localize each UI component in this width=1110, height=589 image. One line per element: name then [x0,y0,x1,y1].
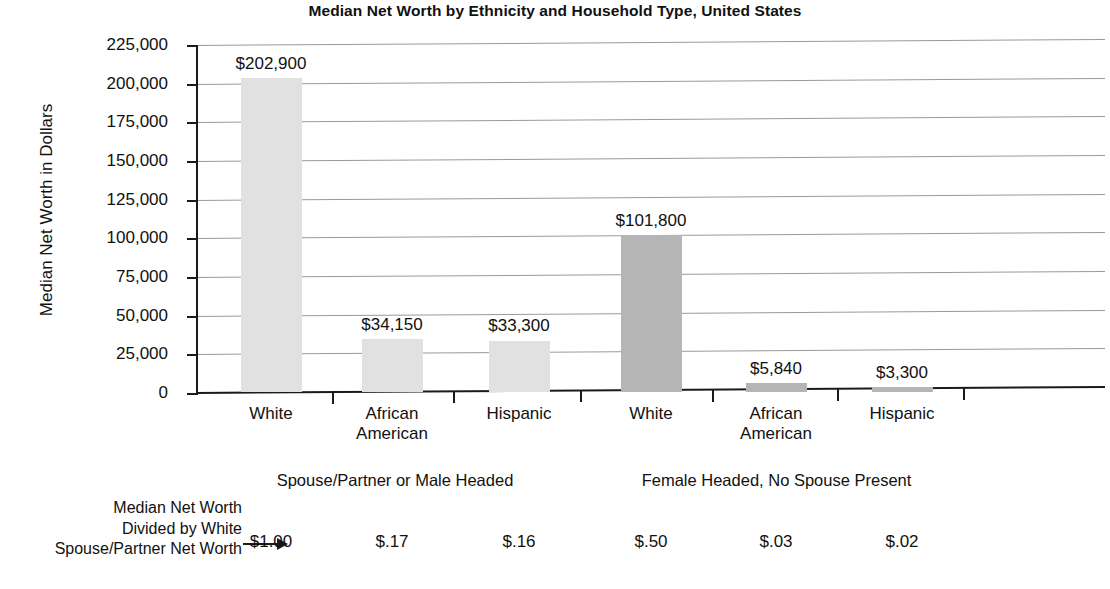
y-axis-tick-labels: 225,000200,000175,000150,000125,000100,0… [0,45,182,393]
ratio-caption-line: Median Net Worth [2,498,242,519]
x-axis-tick [963,388,965,400]
page-title: Median Net Worth by Ethnicity and Househ… [0,2,1110,20]
gridline [196,78,1105,85]
chart-page: Median Net Worth by Ethnicity and Househ… [0,0,1110,589]
gridline [196,194,1105,201]
y-axis-tick-label: 100,000 [107,228,168,248]
ratio-value: $.16 [449,532,589,552]
y-axis-tick-label: 25,000 [116,344,168,364]
bar [489,341,550,393]
gridline [196,39,1105,46]
y-axis-tick-label: 175,000 [107,112,168,132]
y-axis-tick-label: 125,000 [107,190,168,210]
group-label-spouse-partner-or-male-headed: Spouse/Partner or Male Headed [195,471,595,490]
gridline [196,155,1105,162]
x-axis-tick [332,392,334,404]
bar [621,235,682,392]
y-axis-tick-label: 0 [159,383,168,403]
bar [746,383,807,392]
bar [872,387,933,392]
x-axis-tick [580,390,582,402]
plot-area: $202,900$34,150$33,300$101,800$5,840$3,3… [196,45,1105,393]
y-axis-tick-label: 200,000 [107,74,168,94]
bar-value-label: $101,800 [581,211,721,231]
ratio-value: $1.00 [201,532,341,552]
bar-value-label: $5,840 [706,359,846,379]
x-axis-tick [453,391,455,403]
y-axis-tick-label: 50,000 [116,306,168,326]
y-axis-tick-label: 225,000 [107,35,168,55]
bar [241,78,302,392]
ratio-value: $.02 [832,532,972,552]
x-axis-tick [837,389,839,401]
x-axis-tick [712,390,714,402]
bar-value-label: $202,900 [201,54,341,74]
x-axis-category-label: Hispanic [822,404,982,424]
bar-value-label: $33,300 [449,316,589,336]
y-axis-tick-label: 150,000 [107,151,168,171]
ratio-value: $.17 [322,532,462,552]
bar-value-label: $34,150 [322,315,462,335]
y-axis-line [196,45,198,393]
ratio-value: $.50 [581,532,721,552]
bar-value-label: $3,300 [832,363,972,383]
ratio-value: $.03 [706,532,846,552]
gridline [196,116,1105,123]
y-axis-tick-label: 75,000 [116,267,168,287]
bar [362,339,423,392]
group-label-female-headed-no-spouse-present: Female Headed, No Spouse Present [577,471,977,490]
